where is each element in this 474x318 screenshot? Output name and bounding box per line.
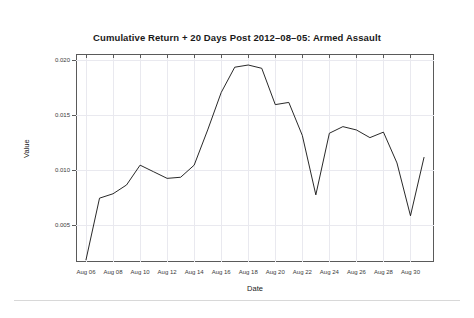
x-tick-label: Aug 16	[212, 269, 231, 275]
x-tick-label: Aug 12	[158, 269, 177, 275]
chart-card: Cumulative Return + 20 Days Post 2012–08…	[14, 8, 460, 300]
x-tick-label: Aug 30	[401, 269, 420, 275]
y-axis-label: Value	[22, 139, 31, 158]
x-tick-label: Aug 14	[185, 269, 204, 275]
x-tick-label: Aug 22	[293, 269, 312, 275]
x-tick-label: Aug 24	[320, 269, 339, 275]
x-tick-label: Aug 06	[76, 269, 95, 275]
chart-title: Cumulative Return + 20 Days Post 2012–08…	[14, 32, 460, 43]
plot-area: 0.0050.0100.0150.020 Aug 06Aug 08Aug 10A…	[76, 54, 434, 262]
series-line	[76, 54, 434, 262]
x-tick-label: Aug 08	[104, 269, 123, 275]
x-tick-label: Aug 20	[266, 269, 285, 275]
page-divider	[14, 300, 460, 301]
y-tick-label: 0.005	[55, 222, 70, 228]
x-tick-label: Aug 18	[239, 269, 258, 275]
x-tick-label: Aug 26	[347, 269, 366, 275]
x-tick-label: Aug 28	[374, 269, 393, 275]
y-tick-label: 0.020	[55, 57, 70, 63]
screenshot-root: Cumulative Return + 20 Days Post 2012–08…	[0, 0, 474, 318]
y-tick-label: 0.010	[55, 167, 70, 173]
y-tick-label: 0.015	[55, 112, 70, 118]
x-tick-label: Aug 10	[131, 269, 150, 275]
x-axis-label: Date	[76, 284, 434, 293]
